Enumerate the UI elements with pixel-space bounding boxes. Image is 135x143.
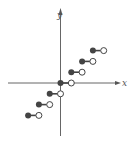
open-dot-icon — [58, 91, 64, 97]
step-segment — [58, 80, 75, 86]
step-segment — [68, 69, 85, 75]
open-dot-icon — [36, 112, 42, 118]
open-dot-icon — [68, 80, 74, 86]
step-segment — [79, 58, 96, 64]
step-segment — [36, 102, 53, 108]
closed-dot-icon — [47, 91, 53, 97]
closed-dot-icon — [68, 69, 74, 75]
open-dot-icon — [101, 48, 107, 54]
open-dot-icon — [90, 58, 96, 64]
open-dot-icon — [79, 69, 85, 75]
closed-dot-icon — [58, 80, 64, 86]
y-axis-label: y — [56, 10, 63, 20]
step-segment — [25, 112, 42, 118]
x-axis-arrow-icon — [115, 81, 121, 85]
closed-dot-icon — [79, 58, 85, 64]
step-segment — [47, 91, 64, 97]
closed-dot-icon — [36, 102, 42, 108]
step-function-graph: x y — [0, 0, 135, 143]
step-segment — [90, 48, 107, 54]
closed-dot-icon — [90, 48, 96, 54]
open-dot-icon — [47, 102, 53, 108]
x-axis-label: x — [122, 78, 127, 88]
closed-dot-icon — [25, 112, 31, 118]
